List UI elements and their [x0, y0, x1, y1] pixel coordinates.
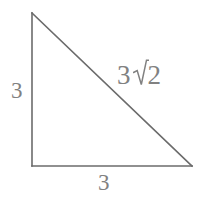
vertical-leg-label: 3 [11, 79, 23, 102]
hypotenuse-line [32, 13, 192, 166]
horizontal-leg-label: 3 [98, 171, 110, 194]
radical-group: 2 [133, 56, 162, 89]
hypotenuse-label: 3 2 [117, 56, 161, 89]
triangle-figure: 3 3 3 2 [0, 0, 206, 199]
square-root-icon [133, 57, 149, 87]
hypotenuse-coefficient: 3 [117, 56, 131, 89]
hypotenuse-radicand: 2 [148, 62, 162, 89]
